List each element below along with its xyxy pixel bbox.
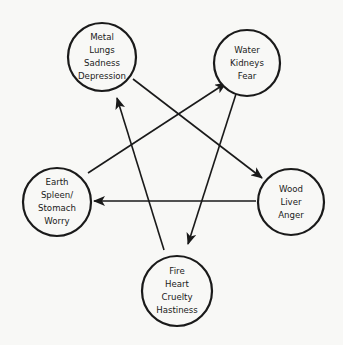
node-fire-label: Fire Heart Cruelty Hastiness: [156, 265, 198, 317]
edge-water-to-fire: [188, 94, 236, 244]
edge-fire-to-metal: [117, 98, 164, 250]
node-earth-organ-1: Spleen/: [38, 189, 76, 202]
node-wood-element: Wood: [278, 183, 304, 196]
node-earth-organ-2: Stomach: [38, 202, 76, 215]
node-metal-label: Metal Lungs Sadness Depression: [78, 31, 126, 83]
node-metal-emotion-1: Sadness: [78, 57, 126, 70]
node-water-emotion: Fear: [230, 70, 264, 83]
node-metal-organ: Lungs: [78, 44, 126, 57]
node-water-label: Water Kidneys Fear: [230, 44, 264, 83]
node-earth-emotion: Worry: [38, 215, 76, 228]
node-fire-emotion-2: Hastiness: [156, 304, 198, 317]
five-elements-diagram: Metal Lungs Sadness Depression Water Kid…: [0, 0, 343, 345]
node-earth-label: Earth Spleen/ Stomach Worry: [38, 176, 76, 228]
node-metal-element: Metal: [78, 31, 126, 44]
node-fire-emotion-1: Cruelty: [156, 291, 198, 304]
node-earth-element: Earth: [38, 176, 76, 189]
node-wood-organ: Liver: [278, 196, 304, 209]
node-water-element: Water: [230, 44, 264, 57]
node-wood-emotion: Anger: [278, 209, 304, 222]
node-metal-emotion-2: Depression: [78, 70, 126, 83]
node-water-organ: Kidneys: [230, 57, 264, 70]
node-wood-label: Wood Liver Anger: [278, 183, 304, 222]
node-fire-element: Fire: [156, 265, 198, 278]
node-fire-organ: Heart: [156, 278, 198, 291]
